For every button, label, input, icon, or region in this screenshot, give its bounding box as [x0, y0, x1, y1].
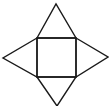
triangle-face-right — [76, 38, 108, 77]
triangle-face-top — [37, 4, 76, 38]
base-square — [37, 38, 76, 77]
triangle-face-left — [3, 38, 37, 77]
triangle-face-bottom — [37, 77, 76, 106]
pyramid-net-diagram — [0, 0, 109, 106]
